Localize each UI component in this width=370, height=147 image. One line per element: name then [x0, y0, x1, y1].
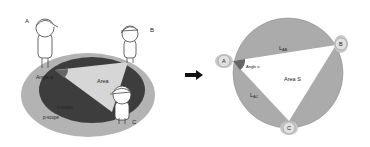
- angle-label-right: Angle a: [246, 64, 260, 69]
- person-c-label: C: [132, 119, 137, 125]
- node-b-label: B: [339, 41, 343, 47]
- area-label-left: Area: [97, 78, 110, 84]
- person-a-label: A: [25, 18, 29, 24]
- node-a-label: A: [222, 58, 226, 64]
- left-scene: A B C Angle a Area o-scope p-scope: [21, 18, 155, 137]
- diagram-canvas: A B C Angle a Area o-scope p-scope A B C: [0, 0, 370, 147]
- right-scene: A B C LAB LAC Angle a Area S: [215, 18, 348, 135]
- node-c-label: C: [287, 125, 291, 131]
- person-b-label: B: [150, 27, 154, 33]
- area-s-label: Area S: [284, 76, 301, 82]
- arrow-right-icon: [185, 70, 203, 80]
- person-b-icon: [121, 26, 138, 63]
- o-scope-label: o-scope: [57, 105, 74, 110]
- p-scope-label: p-scope: [43, 115, 60, 120]
- angle-label-left: Angle a: [36, 74, 53, 80]
